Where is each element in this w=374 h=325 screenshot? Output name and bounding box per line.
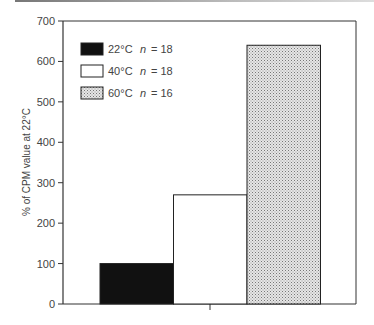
legend-n: n (140, 65, 146, 77)
y-tick-label: 300 (37, 177, 55, 189)
bar-40c (174, 195, 248, 304)
legend-n-value: = 18 (151, 43, 173, 55)
y-axis: 0100200300400500600700 (37, 15, 63, 310)
legend-label: 22°C (108, 43, 133, 55)
y-tick-label: 600 (37, 55, 55, 67)
y-tick-label: 200 (37, 217, 55, 229)
legend-swatch (81, 43, 103, 55)
y-tick-label: 0 (49, 298, 55, 310)
legend-n: n (140, 43, 146, 55)
y-tick-label: 100 (37, 258, 55, 270)
legend-swatch (81, 87, 103, 99)
bars (100, 45, 321, 304)
legend-n-value: = 18 (151, 65, 173, 77)
legend-swatch (81, 65, 103, 77)
legend-label: 60°C (108, 87, 133, 99)
legend: 22°Cn= 1840°Cn= 1860°Cn= 16 (81, 43, 173, 99)
y-tick-label: 500 (37, 96, 55, 108)
bar-22c (100, 264, 174, 304)
legend-label: 40°C (108, 65, 133, 77)
legend-n-value: = 16 (151, 87, 173, 99)
y-tick-label: 400 (37, 136, 55, 148)
bar-60c (247, 45, 321, 304)
y-tick-label: 700 (37, 15, 55, 27)
legend-n: n (140, 87, 146, 99)
bar-chart: 0100200300400500600700 22°Cn= 1840°Cn= 1… (0, 0, 374, 325)
y-axis-label: % of CPM value at 22°C (21, 108, 32, 216)
